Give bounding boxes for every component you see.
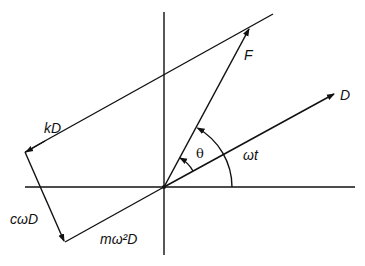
phasor-diagram: F D kD cωD mω²D θ ωt — [0, 0, 365, 266]
label-f: F — [244, 47, 254, 63]
label-d: D — [340, 87, 350, 103]
origin-point — [162, 185, 166, 189]
kd-line — [25, 14, 273, 152]
label-kd: kD — [44, 120, 61, 136]
kd-arrow — [26, 141, 45, 152]
label-cwd: cωD — [10, 211, 38, 227]
label-theta: θ — [196, 146, 204, 161]
cwd-vector — [25, 152, 64, 241]
label-wt: ωt — [243, 147, 259, 163]
label-mw2d: mω²D — [100, 231, 137, 247]
theta-arc — [180, 158, 193, 171]
